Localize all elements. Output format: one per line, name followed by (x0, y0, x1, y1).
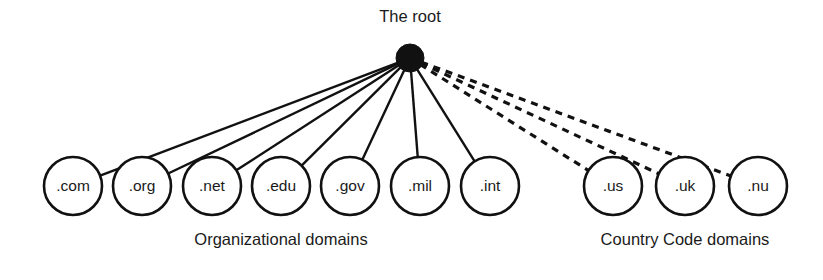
root-node[interactable] (396, 44, 424, 72)
node-label-us: .us (603, 177, 624, 194)
node-label-gov: .gov (335, 177, 365, 194)
node-net[interactable]: .net (183, 157, 241, 215)
node-nu[interactable]: .nu (729, 157, 787, 215)
edge-root-to-uk (421, 63, 659, 174)
node-uk[interactable]: .uk (656, 157, 714, 215)
node-edu[interactable]: .edu (252, 157, 310, 215)
node-mil[interactable]: .mil (391, 157, 449, 215)
node-label-net: .net (199, 177, 226, 194)
diagram-canvas: .com.org.net.edu.gov.mil.int.us.uk.nu Th… (0, 0, 823, 280)
node-gov[interactable]: .gov (321, 157, 379, 215)
group-label-country-code-domains: Country Code domains (601, 230, 770, 248)
group-label-organizational-domains: Organizational domains (194, 230, 367, 248)
node-group: .com.org.net.edu.gov.mil.int.us.uk.nu (44, 157, 787, 215)
node-label-edu: .edu (266, 177, 296, 194)
dns-hierarchy-diagram: .com.org.net.edu.gov.mil.int.us.uk.nu Th… (0, 0, 823, 280)
node-label-int: .int (480, 177, 501, 194)
node-label-org: .org (129, 177, 156, 194)
node-int[interactable]: .int (461, 157, 519, 215)
edge-root-to-net (236, 65, 400, 171)
node-label-com: .com (56, 177, 90, 194)
edge-root-to-gov (362, 69, 405, 160)
node-label-mil: .mil (408, 177, 432, 194)
edge-root-to-mil (411, 70, 418, 157)
node-com[interactable]: .com (44, 157, 102, 215)
node-label-uk: .uk (675, 177, 696, 194)
edge-root-to-us (420, 64, 588, 170)
node-org[interactable]: .org (113, 157, 171, 215)
node-us[interactable]: .us (584, 157, 642, 215)
root-node-label: The root (379, 7, 441, 25)
node-label-nu: .nu (747, 177, 769, 194)
